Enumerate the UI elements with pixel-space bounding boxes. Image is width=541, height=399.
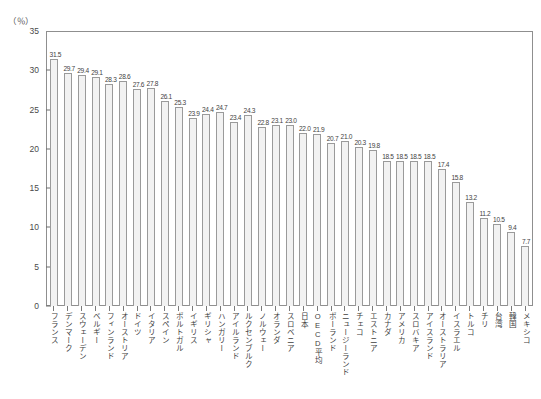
y-axis-tick-label: 20 (0, 144, 46, 154)
x-axis-label-slot: ノルウェー (255, 312, 269, 396)
bar-value-label: 19.8 (368, 142, 379, 149)
x-axis-label-slot: ポルトガル (172, 312, 186, 396)
bar-value-label: 23.9 (188, 110, 199, 117)
bar-slot: 22.0 (296, 32, 310, 306)
x-axis-tick (477, 306, 491, 311)
tick-mark (192, 306, 193, 311)
bar-slot: 20.7 (324, 32, 338, 306)
bar-value-label: 10.5 (493, 216, 504, 223)
bar-value-label: 17.4 (438, 161, 449, 168)
x-axis-label-slot: スペイン (158, 312, 172, 396)
bar (493, 224, 501, 307)
x-axis-tick (366, 306, 380, 311)
x-axis-category-label: ドイツ (133, 312, 141, 396)
bar-slot: 24.4 (199, 32, 213, 306)
bar-slot: 11.2 (477, 32, 491, 306)
x-axis-tick (491, 306, 505, 311)
bar (258, 127, 266, 306)
x-axis-label-slot: ベルギー (89, 312, 103, 396)
x-axis-label-slot: チリ (477, 312, 491, 396)
bar (396, 161, 404, 306)
x-axis-tick (89, 306, 103, 311)
bar (105, 84, 113, 306)
x-axis-label-slot: 韓国 (504, 312, 518, 396)
bar-value-label: 29.4 (77, 67, 88, 74)
x-axis-category-label: スウェーデン (78, 312, 86, 396)
bar (341, 141, 349, 306)
bar (272, 125, 280, 307)
bar-slot: 29.4 (75, 32, 89, 306)
tick-mark (123, 306, 124, 311)
tick-mark (53, 306, 54, 311)
x-axis-category-label: イタリア (147, 312, 155, 396)
x-axis-tick (172, 306, 186, 311)
bar-slot: 7.7 (518, 32, 532, 306)
x-axis-label-slot: アイスランド (421, 312, 435, 396)
bar-value-label: 13.2 (465, 194, 476, 201)
x-axis-tick (518, 306, 532, 311)
bar-slot: 23.0 (283, 32, 297, 306)
x-axis-tick (227, 306, 241, 311)
bar-value-label: 29.7 (63, 65, 74, 72)
x-axis-label-slot: イタリア (144, 312, 158, 396)
y-axis-tick-label: 5 (0, 262, 46, 272)
bar (327, 143, 335, 306)
x-axis-category-label: 日本 (299, 312, 307, 396)
x-axis-category-label: OECD平均 (313, 312, 321, 396)
bar-slot: 28.3 (102, 32, 116, 306)
bar (216, 112, 224, 306)
bar-value-label: 20.3 (354, 139, 365, 146)
x-axis-label-slot: オーストラリア (435, 312, 449, 396)
tick-mark (275, 306, 276, 311)
x-axis-tick (296, 306, 310, 311)
x-axis-tick (158, 306, 172, 311)
bar-value-label: 20.7 (327, 135, 338, 142)
x-axis-tick (283, 306, 297, 311)
x-axis-label-slot: スロベニア (283, 312, 297, 396)
bar-slot: 27.8 (144, 32, 158, 306)
bar-value-label: 25.3 (174, 99, 185, 106)
x-axis-tick (449, 306, 463, 311)
x-axis-tick (116, 306, 130, 311)
bar (286, 125, 294, 306)
bar-slot: 18.5 (407, 32, 421, 306)
tick-mark (344, 306, 345, 311)
tick-mark (220, 306, 221, 311)
x-axis-category-label: フランス (50, 312, 58, 396)
bar-slot: 28.6 (116, 32, 130, 306)
x-axis-category-label: イギリス (189, 312, 197, 396)
bar-slot: 23.9 (186, 32, 200, 306)
bar-slot: 26.1 (158, 32, 172, 306)
x-axis-label-slot: メキシコ (518, 312, 532, 396)
x-axis-tick (130, 306, 144, 311)
bar (147, 88, 155, 306)
tick-mark (400, 306, 401, 311)
bar-value-label: 22.8 (257, 119, 268, 126)
bar (92, 77, 100, 306)
x-axis-label-slot: オランダ (269, 312, 283, 396)
bar-value-label: 21.0 (341, 133, 352, 140)
bar (424, 161, 432, 306)
x-axis-label-slot: ギリシャ (199, 312, 213, 396)
x-axis-ticks (47, 306, 532, 311)
x-axis-tick (338, 306, 352, 311)
x-axis-category-label: オーストリア (119, 312, 127, 396)
x-axis-tick (393, 306, 407, 311)
bar-slot: 24.3 (241, 32, 255, 306)
bar-value-label: 24.3 (244, 107, 255, 114)
bar-value-label: 21.9 (313, 126, 324, 133)
bar (161, 101, 169, 306)
bar (50, 59, 58, 307)
y-axis-tick-label: 30 (0, 65, 46, 75)
y-axis-tick-label: 15 (0, 183, 46, 193)
x-axis-category-label: フィンランド (105, 312, 113, 396)
x-axis-label-slot: イスラエル (449, 312, 463, 396)
bar-value-label: 28.3 (105, 76, 116, 83)
bar-slot: 25.3 (172, 32, 186, 306)
x-axis-tick (102, 306, 116, 311)
bar (355, 147, 363, 307)
tick-mark (150, 306, 151, 311)
bar-value-label: 11.2 (479, 210, 490, 217)
bar-value-label: 27.6 (133, 81, 144, 88)
bar-value-label: 23.1 (271, 117, 282, 124)
